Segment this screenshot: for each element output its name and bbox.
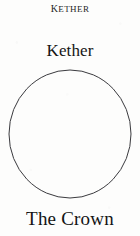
- running-head: Kether: [0, 1, 140, 15]
- sephira-translation: The Crown: [0, 207, 140, 231]
- circle-diagram: [8, 69, 132, 199]
- circle-svg: [8, 69, 132, 199]
- circle-outline: [9, 70, 131, 198]
- kether-plate: Kether Kether The Crown: [0, 0, 140, 236]
- sephira-name: Kether: [0, 41, 140, 61]
